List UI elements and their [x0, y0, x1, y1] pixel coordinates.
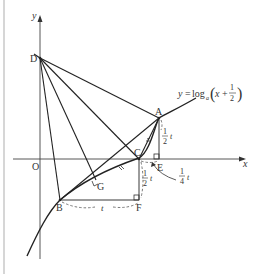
- annotation-CF: 1 2 t: [142, 169, 153, 188]
- right-angle-marks: [92, 154, 159, 200]
- svg-text:1: 1: [163, 127, 167, 136]
- eq-plus: +: [222, 88, 228, 99]
- tick-BC: [119, 167, 122, 170]
- eq-frac-num: 1: [230, 83, 234, 92]
- annotation-CE: 1 4 t: [179, 167, 190, 186]
- x-axis-label: x: [242, 158, 248, 169]
- point-G-label: G: [97, 181, 104, 192]
- svg-text:t: t: [187, 173, 190, 182]
- segment-DA: [40, 58, 159, 118]
- origin-label: O: [32, 161, 39, 172]
- y-axis-label: y: [31, 10, 37, 21]
- point-A-label: A: [155, 106, 163, 117]
- annotation-AE: 1 2 t: [162, 127, 173, 146]
- brace-BF-right: [113, 203, 138, 208]
- eq-frac-den: 2: [230, 94, 234, 103]
- y-axis-arrow-icon: [38, 15, 43, 22]
- svg-text:t: t: [150, 174, 153, 183]
- svg-text:1: 1: [180, 167, 184, 176]
- point-D-label: D: [30, 53, 37, 64]
- brace-BF: [62, 202, 95, 208]
- segments: [34, 54, 159, 200]
- svg-text:2: 2: [163, 137, 167, 146]
- curve-equation: y = log a ( x + 1 2 ): [177, 83, 242, 103]
- eq-lhs: y: [177, 88, 183, 99]
- eq-arg-var: x: [214, 88, 220, 99]
- svg-text:1: 1: [143, 169, 147, 178]
- eq-equals: =: [185, 88, 191, 99]
- svg-text:4: 4: [180, 177, 184, 186]
- point-B-label: B: [56, 202, 63, 213]
- annotation-BF: t: [101, 203, 104, 213]
- log-curve: [27, 98, 196, 256]
- right-angle-E: [154, 154, 159, 159]
- geometry-figure: y x O D A C E G B F y = log a ( x + 1 2 …: [0, 0, 261, 274]
- tick-BC2: [121, 166, 124, 169]
- right-angle-F: [134, 195, 139, 200]
- svg-text:2: 2: [143, 179, 147, 188]
- eq-log: log: [192, 88, 205, 99]
- eq-rparen: ): [237, 85, 242, 103]
- point-F-label: F: [136, 202, 142, 213]
- tick-CA2: [147, 138, 150, 139]
- axes: [13, 17, 244, 259]
- point-C-label: C: [134, 147, 141, 158]
- svg-text:t: t: [170, 132, 173, 141]
- segment-DC: [40, 58, 139, 159]
- eq-base: a: [206, 95, 209, 101]
- brace-AE: [161, 120, 162, 130]
- dashed-braces: [62, 120, 162, 208]
- point-E-label: E: [157, 162, 163, 173]
- brace-CE: [141, 161, 158, 163]
